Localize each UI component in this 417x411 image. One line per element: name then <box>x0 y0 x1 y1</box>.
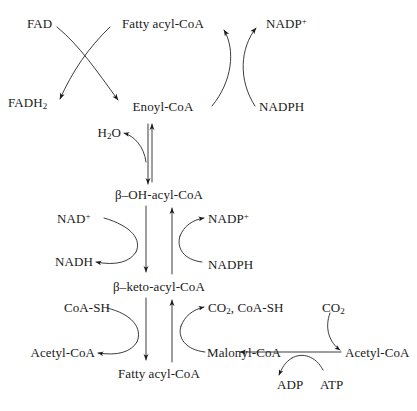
node-acetyl-coa-left: Acetyl-CoA <box>30 346 95 359</box>
arrow-to-acetylcoa-left <box>98 342 137 354</box>
node-co2-right-sub: 2 <box>340 306 345 316</box>
node-fad: FAD <box>27 17 52 30</box>
node-nadp-plus-mid-text: NADP <box>208 211 244 226</box>
node-nadph-top: NADPH <box>259 100 304 113</box>
node-beta-keto-acyl-coa: β–keto-acyl-CoA <box>113 280 205 293</box>
curve-nadph-in <box>179 236 202 262</box>
curve-atp-in <box>292 355 323 370</box>
arrow-fattyacyl-to-fadh2 <box>60 27 110 99</box>
arrow-co2-in <box>328 313 340 350</box>
node-water: H2O <box>98 126 122 141</box>
curve-coash-in <box>107 308 139 342</box>
node-nadph-mid: NADPH <box>208 258 253 271</box>
node-beta-oh-acyl-coa: β–OH-acyl-CoA <box>115 188 203 201</box>
node-co2-coash-tail: , CoA-SH <box>231 300 284 315</box>
node-adp: ADP <box>277 378 303 391</box>
arrow-enoyl-to-fattyacyl <box>212 30 231 106</box>
node-water-text: H <box>98 125 108 140</box>
node-nadp-plus-mid: NADP+ <box>208 212 249 225</box>
node-fatty-acyl-coa-top: Fatty acyl-CoA <box>122 17 204 30</box>
node-nadp-plus-mid-sup: + <box>244 211 249 221</box>
node-fatty-acyl-coa-bottom: Fatty acyl-CoA <box>118 367 200 380</box>
node-nadh: NADH <box>55 255 93 268</box>
node-fadh2-text: FADH <box>8 95 43 110</box>
node-nad-plus: NAD+ <box>57 212 91 225</box>
node-co2-coash: CO2, CoA-SH <box>208 301 284 316</box>
pathway-diagram: FAD FADH2 Fatty acyl-CoA NADP+ Enoyl-CoA… <box>0 0 417 411</box>
node-malonyl-coa: Malonyl-CoA <box>207 346 281 359</box>
arrow-to-nadh <box>96 252 136 264</box>
node-fadh2: FADH2 <box>8 96 47 111</box>
node-coa-sh-left: CoA-SH <box>64 301 110 314</box>
node-fadh2-sub: 2 <box>43 101 48 111</box>
node-co2-right: CO2 <box>322 301 345 316</box>
arrow-water-branch <box>124 133 146 162</box>
node-nadp-plus-top-text: NADP <box>266 16 302 31</box>
node-water-tail: O <box>112 125 122 140</box>
curve-malonyl-in <box>180 326 205 352</box>
node-nad-plus-sup: + <box>85 211 90 221</box>
curve-nad-in <box>104 218 138 252</box>
arrow-fad-to-enoyl <box>57 27 118 100</box>
node-acetyl-coa-right: Acetyl-CoA <box>345 346 410 359</box>
arrow-to-adp <box>279 358 292 375</box>
node-nad-plus-text: NAD <box>57 211 85 226</box>
node-nadp-plus-top: NADP+ <box>266 17 307 30</box>
arrow-nadph-to-nadp-top <box>243 28 256 106</box>
node-co2-right-text: CO <box>322 300 340 315</box>
arrow-to-nadp-mid <box>180 218 204 236</box>
node-co2-coash-text: CO <box>208 300 226 315</box>
node-atp: ATP <box>320 378 343 391</box>
arrow-to-co2-coash <box>181 307 204 326</box>
node-enoyl-coa: Enoyl-CoA <box>133 100 194 113</box>
node-nadp-plus-top-sup: + <box>302 16 307 26</box>
